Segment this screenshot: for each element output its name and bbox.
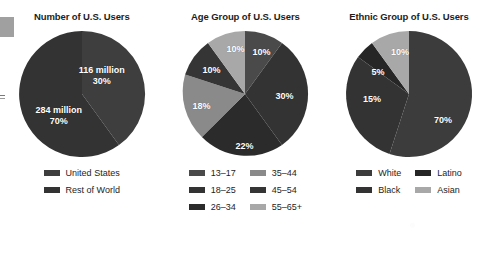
slice-label-black: 15% xyxy=(363,94,381,105)
legend-swatch-icon xyxy=(189,187,205,193)
legend-item-18-25[interactable]: 18–25 xyxy=(189,185,236,195)
legend-swatch-icon xyxy=(415,170,431,176)
legend-ethnic-group-of-us-users: White Latino Black Asian xyxy=(356,168,462,195)
legend-swatch-icon xyxy=(44,170,60,176)
page-title-ethnic-group-of-us-users: Ethnic Group of U.S. Users xyxy=(349,11,468,22)
legend-label: White xyxy=(378,168,401,178)
chart-panel-number-of-us-users: Number of U.S. Users 116 million 30% 284… xyxy=(0,0,164,256)
legend-label: 18–25 xyxy=(211,185,236,195)
slice-label-18-25: 30% xyxy=(275,91,293,102)
legend-item-13-17[interactable]: 13–17 xyxy=(189,168,236,178)
slice-label-13-17: 10% xyxy=(252,47,270,58)
page-title-age-group-of-us-users: Age Group of U.S. Users xyxy=(191,11,300,22)
legend-swatch-icon xyxy=(189,170,205,176)
legend-item-white[interactable]: White xyxy=(356,168,401,178)
page-title-number-of-us-users: Number of U.S. Users xyxy=(34,11,130,22)
legend-label: 35–44 xyxy=(272,168,297,178)
legend-swatch-icon xyxy=(356,187,372,193)
slice-label-latino: 5% xyxy=(371,67,384,78)
legend-label: 45–54 xyxy=(272,185,297,195)
chart-panel-age-group-of-us-users: Age Group of U.S. Users 10% 30% 22% 18% … xyxy=(164,0,328,256)
legend-swatch-icon xyxy=(250,170,266,176)
legend-label: Rest of World xyxy=(66,185,120,195)
pie-chart-age-group-of-us-users: 10% 30% 22% 18% 10% 10% xyxy=(181,30,309,158)
legend-item-united-states[interactable]: United States xyxy=(44,168,120,178)
slice-label-35-44: 18% xyxy=(192,101,210,112)
legend-item-55-65-plus[interactable]: 55–65+ xyxy=(250,202,302,212)
pie-chart-number-of-us-users: 116 million 30% 284 million 70% xyxy=(18,30,146,158)
legend-label: Black xyxy=(378,185,400,195)
slice-label-united-states: 116 million 30% xyxy=(79,65,125,86)
legend-age-group-of-us-users: 13–17 35–44 18–25 45–54 26–34 55–65+ xyxy=(189,168,302,212)
legend-number-of-us-users: United States Rest of World xyxy=(44,168,120,195)
slice-label-line1: 116 million xyxy=(79,65,125,76)
slice-label-26-34: 22% xyxy=(235,141,253,152)
legend-item-latino[interactable]: Latino xyxy=(415,168,462,178)
slice-label-rest-of-world: 284 million 70% xyxy=(36,105,83,126)
legend-item-rest-of-world[interactable]: Rest of World xyxy=(44,185,120,195)
slice-label-line2: 30% xyxy=(79,76,125,87)
legend-label: United States xyxy=(66,168,120,178)
legend-item-45-54[interactable]: 45–54 xyxy=(250,185,302,195)
legend-swatch-icon xyxy=(189,204,205,210)
legend-swatch-icon xyxy=(356,170,372,176)
slice-label-line1: 284 million xyxy=(36,105,83,116)
legend-swatch-icon xyxy=(250,204,266,210)
chart-panel-row: Number of U.S. Users 116 million 30% 284… xyxy=(0,0,491,256)
legend-swatch-icon xyxy=(250,187,266,193)
legend-swatch-icon xyxy=(44,187,60,193)
slice-label-line2: 70% xyxy=(36,116,83,127)
chart-panel-ethnic-group-of-us-users: Ethnic Group of U.S. Users 70% 15% 5% 10… xyxy=(327,0,491,256)
legend-label: 13–17 xyxy=(211,168,236,178)
legend-label: 55–65+ xyxy=(272,202,302,212)
slice-label-55-65-plus: 10% xyxy=(226,44,244,55)
slice-label-white: 70% xyxy=(434,115,452,126)
pie-svg-number-of-us-users xyxy=(18,30,146,158)
legend-label: Asian xyxy=(437,185,460,195)
legend-label: 26–34 xyxy=(211,202,236,212)
legend-item-black[interactable]: Black xyxy=(356,185,401,195)
legend-label: Latino xyxy=(437,168,462,178)
pie-chart-ethnic-group-of-us-users: 70% 15% 5% 10% xyxy=(345,30,473,158)
legend-item-asian[interactable]: Asian xyxy=(415,185,462,195)
legend-swatch-icon xyxy=(415,187,431,193)
slice-label-asian: 10% xyxy=(391,47,409,58)
slice-label-45-54: 10% xyxy=(202,65,220,76)
legend-item-35-44[interactable]: 35–44 xyxy=(250,168,302,178)
legend-item-26-34[interactable]: 26–34 xyxy=(189,202,236,212)
